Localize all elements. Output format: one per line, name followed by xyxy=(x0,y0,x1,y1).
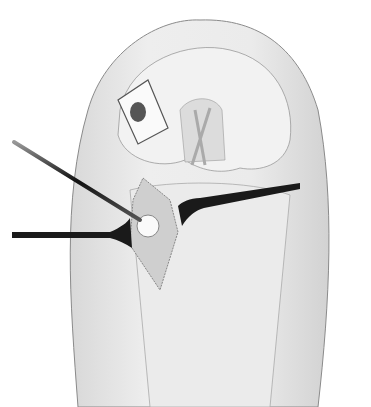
knee-surgery-illustration xyxy=(0,0,371,407)
lesion xyxy=(130,102,146,122)
illustration-canvas xyxy=(0,0,371,407)
